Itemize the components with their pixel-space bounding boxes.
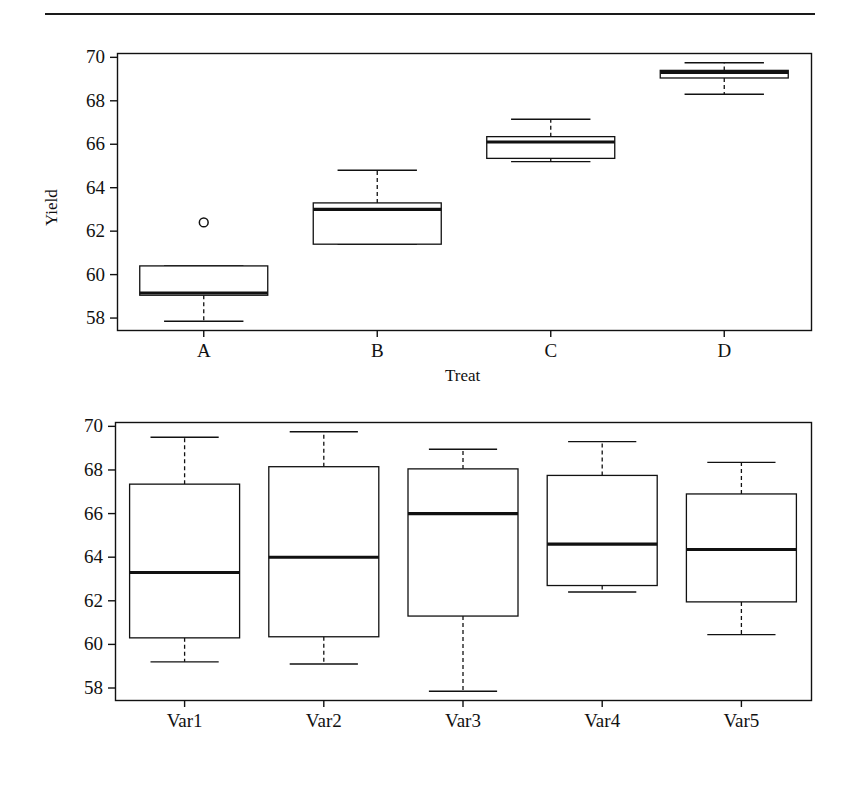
y-tick-label: 70 [86, 46, 105, 67]
boxplot-Var1 [130, 437, 240, 662]
boxplot-Var5 [686, 462, 796, 634]
outlier-point [199, 218, 208, 227]
x-tick-label: Var5 [723, 710, 759, 731]
x-tick-label: Var4 [584, 710, 620, 731]
x-tick-label: C [544, 340, 557, 361]
y-tick-label: 58 [84, 677, 103, 698]
treat-x-axis-title: Treat [445, 366, 480, 386]
x-tick-label: B [371, 340, 384, 361]
x-tick-label: Var2 [306, 710, 342, 731]
treat-boxplot-canvas: 58606264666870ABCD [0, 0, 849, 395]
boxplot-C [487, 119, 615, 161]
boxplot-D [660, 63, 788, 95]
treat-boxplot-figure: 58606264666870ABCD Yield Treat [0, 0, 849, 395]
y-tick-label: 60 [84, 633, 103, 654]
x-tick-label: A [197, 340, 211, 361]
box-iqr [140, 266, 268, 295]
box-iqr [487, 137, 615, 159]
y-tick-label: 66 [86, 133, 105, 154]
boxplot-A [140, 218, 268, 321]
y-tick-label: 60 [86, 264, 105, 285]
x-tick-label: Var3 [445, 710, 481, 731]
boxplot-Var3 [408, 449, 518, 691]
x-tick-label: D [717, 340, 731, 361]
y-tick-label: 68 [84, 459, 103, 480]
y-tick-label: 66 [84, 503, 103, 524]
var-boxplot-figure: 58606264666870Var1Var2Var3Var4Var5 Yield… [0, 395, 849, 785]
boxplot-B [313, 170, 441, 244]
y-tick-label: 58 [86, 307, 105, 328]
box-iqr [686, 494, 796, 602]
y-tick-label: 62 [86, 220, 105, 241]
box-iqr [547, 475, 657, 585]
boxplot-Var4 [547, 442, 657, 592]
y-tick-label: 64 [84, 546, 104, 567]
box-iqr [130, 484, 240, 638]
boxplot-Var2 [269, 432, 379, 664]
box-iqr [408, 469, 518, 616]
figure-page: 58606264666870ABCD Yield Treat 586062646… [0, 0, 849, 785]
y-tick-label: 68 [86, 90, 105, 111]
x-tick-label: Var1 [167, 710, 203, 731]
y-tick-label: 64 [86, 177, 106, 198]
y-tick-label: 62 [84, 590, 103, 611]
box-iqr [269, 467, 379, 637]
var-boxplot-canvas: 58606264666870Var1Var2Var3Var4Var5 [0, 395, 849, 785]
treat-y-axis-title: Yield [42, 189, 62, 226]
y-tick-label: 70 [84, 415, 103, 436]
